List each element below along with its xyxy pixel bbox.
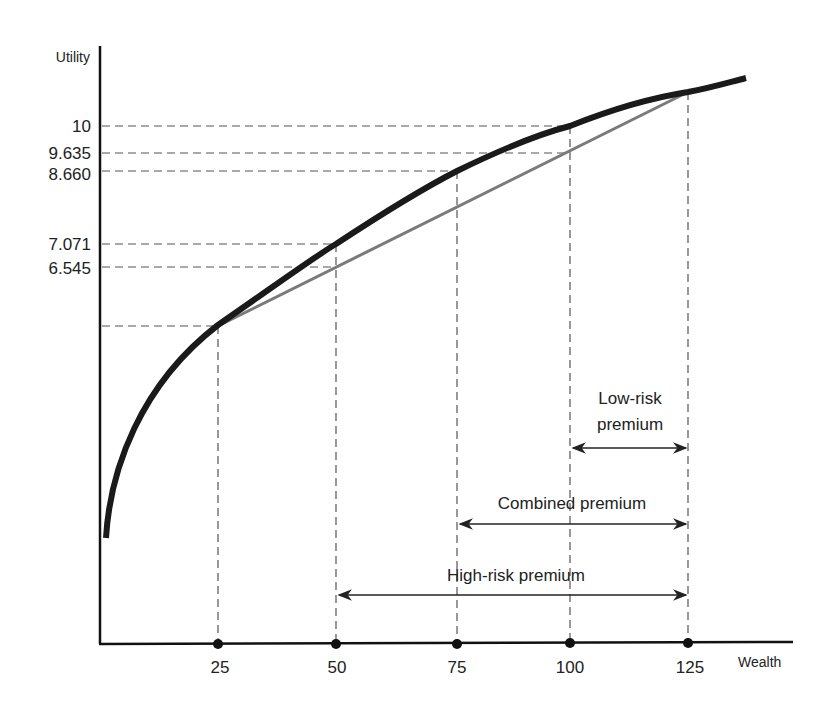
low-risk-label-line1: Low-risk bbox=[598, 389, 662, 408]
combined-label: Combined premium bbox=[498, 494, 646, 513]
marker-dot bbox=[331, 639, 341, 649]
utility-curve-main bbox=[106, 78, 746, 538]
utility-wealth-chart: Utility Wealth 10 9.635 8.660 7.071 6.54… bbox=[0, 0, 833, 713]
y-tick-label: 10 bbox=[72, 117, 91, 136]
low-risk-premium-annotation: Low-risk premium bbox=[573, 389, 686, 448]
chord-line bbox=[218, 92, 688, 326]
y-tick-label: 8.660 bbox=[48, 165, 91, 184]
y-tick-label: 6.545 bbox=[48, 259, 91, 278]
marker-dot bbox=[683, 638, 693, 648]
low-risk-label-line2: premium bbox=[597, 415, 663, 434]
y-axis-title: Utility bbox=[56, 49, 90, 65]
y-tick-label: 9.635 bbox=[48, 144, 91, 163]
x-tick-label: 50 bbox=[328, 658, 347, 677]
x-tick-label: 75 bbox=[448, 658, 467, 677]
x-tick-label: 125 bbox=[676, 658, 704, 677]
x-tick-label: 100 bbox=[556, 658, 584, 677]
y-tick-labels: 10 9.635 8.660 7.071 6.545 bbox=[48, 117, 91, 278]
high-risk-label: High-risk premium bbox=[447, 566, 585, 585]
combined-premium-annotation: Combined premium bbox=[460, 494, 686, 524]
high-risk-premium-annotation: High-risk premium bbox=[339, 566, 686, 595]
x-axis-title: Wealth bbox=[738, 654, 781, 670]
y-tick-label: 7.071 bbox=[48, 235, 91, 254]
marker-dot bbox=[452, 639, 462, 649]
x-tick-labels: 25 50 75 100 125 bbox=[211, 658, 705, 677]
marker-dot bbox=[565, 638, 575, 648]
x-tick-label: 25 bbox=[211, 658, 230, 677]
marker-dot bbox=[213, 639, 223, 649]
